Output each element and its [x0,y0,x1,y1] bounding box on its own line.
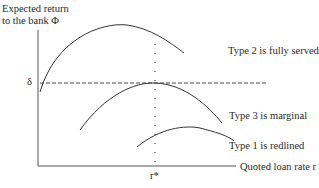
type1-curve [137,127,234,147]
type1-label: Type 1 is redlined [229,140,304,151]
type3-label: Type 3 is marginal [229,110,307,121]
type3-curve [80,83,222,130]
r-star-label: r* [150,170,159,181]
diagram-canvas [0,0,319,188]
type2-label: Type 2 is fully served [228,45,319,56]
type2-curve [40,25,184,92]
delta-label: δ [27,76,32,87]
x-axis-label: Quoted loan rate r [240,161,316,172]
